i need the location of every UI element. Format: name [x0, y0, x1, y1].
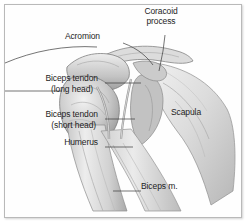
- anatomy-figure: Acromion Coracoid process Biceps tendon …: [0, 0, 248, 224]
- label-biceps-tendon-short-head-line2: (short head): [8, 121, 96, 131]
- label-biceps-tendon-long-head-line2: (long head): [8, 85, 93, 95]
- label-humerus: Humerus: [8, 138, 98, 148]
- label-scapula: Scapula: [171, 108, 201, 118]
- label-coracoid-process-line2: process: [133, 17, 189, 27]
- label-biceps-tendon-long-head-line1: Biceps tendon: [8, 74, 98, 84]
- label-acromion: Acromion: [65, 32, 100, 42]
- label-biceps-tendon-short-head-line1: Biceps tendon: [8, 110, 98, 120]
- label-biceps-muscle: Biceps m.: [141, 182, 177, 192]
